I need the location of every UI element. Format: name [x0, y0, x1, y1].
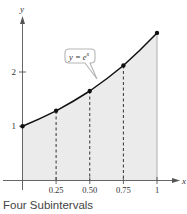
x-tick-label-0-25: 0.25: [49, 185, 64, 195]
curve-point-1: [155, 31, 159, 35]
y-tick-label-2: 2: [12, 67, 17, 77]
curve-point-0-75: [121, 63, 125, 67]
callout-label: y = ex: [68, 51, 90, 62]
y-tick-label-1: 1: [12, 121, 17, 131]
x-axis-label: x: [181, 176, 186, 186]
x-tick-label-1: 1: [155, 185, 159, 195]
curve-point-0-25: [54, 109, 58, 113]
x-axis-arrow-icon: [172, 178, 180, 183]
x-tick-label-0-50: 0.50: [82, 185, 97, 195]
chart-figure: x y 2 1 0.25 0.50 0.75 1 y = ex: [0, 0, 187, 214]
x-tick-label-0-75: 0.75: [116, 185, 131, 195]
curve-point-0: [20, 124, 24, 128]
y-axis-label: y: [19, 4, 24, 14]
callout-exponent: x: [86, 51, 90, 57]
function-callout: y = ex: [65, 49, 97, 79]
curve-point-0-50: [88, 89, 92, 93]
figure-caption: Four Subintervals: [3, 199, 93, 211]
y-axis-arrow-icon: [20, 16, 25, 24]
